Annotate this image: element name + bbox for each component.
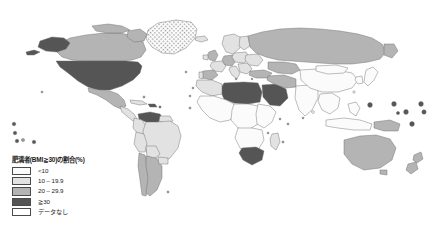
legend-swatch-20-29 <box>12 187 31 195</box>
legend-swatch-ge30 <box>12 198 31 206</box>
region-island-canary <box>192 87 194 89</box>
legend-swatch-lt10 <box>12 167 31 175</box>
region-island-atlantic <box>189 107 191 109</box>
legend-title: 肥満者(BMI≧30)の割合(%) <box>12 156 132 164</box>
legend-item-ge30: ≧30 <box>12 197 132 207</box>
region-small-island-5 <box>32 140 36 144</box>
region-island-malta <box>235 78 237 80</box>
legend-swatch-nodata <box>12 208 31 216</box>
region-island-maldives <box>302 117 304 119</box>
region-small-island-3 <box>15 139 19 143</box>
region-island-sri-lanka <box>312 111 315 114</box>
region-island-hawaii <box>41 91 43 93</box>
region-pacific-island-5 <box>422 110 426 114</box>
region-island-indian-ocean <box>287 123 289 125</box>
region-island-azores <box>185 71 187 73</box>
region-pacific-island-4 <box>404 110 409 115</box>
region-island-cyprus <box>251 78 253 80</box>
legend-label-nodata: データなし <box>38 208 68 216</box>
region-pacific-island-1 <box>368 103 373 108</box>
region-ireland <box>203 55 208 60</box>
legend-label-20-29: 20 – 29.9 <box>38 187 63 195</box>
region-pacific-island-7 <box>396 111 399 114</box>
region-island-cape-verde <box>189 95 191 97</box>
region-pacific-island-6 <box>410 122 415 127</box>
region-island-falklands <box>167 191 169 193</box>
region-small-island-1 <box>12 122 16 126</box>
region-island-caribbean-small <box>159 106 161 108</box>
region-island-seychelles <box>279 118 281 120</box>
map-legend: 肥満者(BMI≧30)の割合(%) <10 10 – 19.9 20 – 29.… <box>12 156 132 217</box>
world-obesity-map-figure: 肥満者(BMI≧30)の割合(%) <10 10 – 19.9 20 – 29.… <box>0 0 438 237</box>
legend-label-ge30: ≧30 <box>38 198 50 206</box>
region-pacific-island-3 <box>419 102 424 107</box>
region-small-island-4 <box>21 138 24 141</box>
legend-label-10-19: 10 – 19.9 <box>38 177 63 185</box>
legend-item-nodata: データなし <box>12 207 132 217</box>
region-island-mauritius <box>282 141 284 143</box>
region-tasmania <box>380 170 387 175</box>
region-small-island-2 <box>13 131 17 135</box>
region-uruguay-paraguay <box>158 157 168 164</box>
region-pacific-island-2 <box>392 102 397 107</box>
legend-item-10-19: 10 – 19.9 <box>12 176 132 186</box>
region-portugal <box>199 72 203 79</box>
legend-item-20-29: 20 – 29.9 <box>12 186 132 196</box>
region-island-comoros <box>267 132 269 134</box>
legend-swatch-10-19 <box>12 177 31 185</box>
legend-item-lt10: <10 <box>12 166 132 176</box>
legend-label-lt10: <10 <box>38 167 48 175</box>
region-island-taiwan <box>353 91 355 93</box>
region-island-bahamas <box>143 96 145 98</box>
